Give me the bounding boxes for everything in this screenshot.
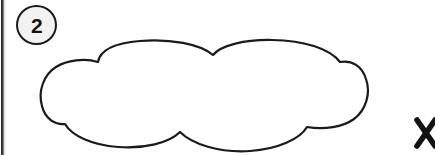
- cloud-outline-shape: [0, 0, 435, 155]
- cloud-outline-path: [41, 40, 368, 151]
- worksheet-figure-canvas: 2: [0, 0, 435, 155]
- x-mark-cross-icon: [404, 113, 435, 155]
